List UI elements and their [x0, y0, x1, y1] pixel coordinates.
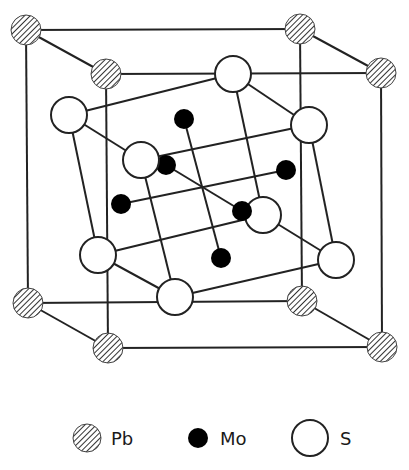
legend-label-pb: Pb	[111, 428, 133, 449]
diagram-canvas: Pb Mo S	[0, 0, 409, 470]
mo-atom	[111, 194, 131, 214]
s-atom	[291, 107, 327, 143]
s-atom	[215, 56, 251, 92]
s-atom	[318, 242, 354, 278]
mo-atom	[276, 160, 296, 180]
pb-atom	[91, 59, 121, 89]
legend-label-mo: Mo	[220, 428, 247, 449]
legend-label-s: S	[340, 428, 351, 449]
s-atom	[80, 237, 116, 273]
s-atom	[123, 142, 159, 178]
s-atom	[157, 279, 193, 315]
pb-atom	[366, 58, 396, 88]
s-legend-icon	[292, 420, 328, 456]
pb-atom	[287, 286, 317, 316]
pb-atom	[367, 332, 397, 362]
pb-legend-icon	[73, 424, 101, 452]
pb-atom	[285, 14, 315, 44]
mo-axes	[121, 119, 286, 258]
mo-atom	[174, 109, 194, 129]
pb-atom	[11, 15, 41, 45]
crystal-structure-diagram: Pb Mo S	[0, 0, 409, 470]
pb-atom	[93, 333, 123, 363]
s-atom	[51, 97, 87, 133]
mo-atom	[211, 248, 231, 268]
pb-atom	[13, 288, 43, 318]
mo-legend-icon	[188, 428, 208, 448]
mo-atom	[232, 201, 252, 221]
legend: Pb Mo S	[73, 420, 351, 456]
